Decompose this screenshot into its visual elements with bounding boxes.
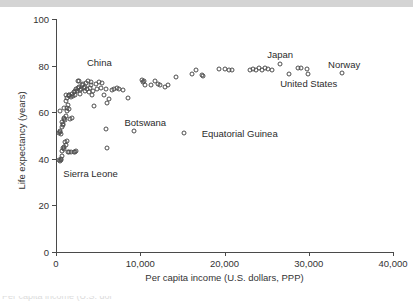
data-point bbox=[103, 86, 108, 91]
data-point bbox=[193, 68, 198, 73]
data-point bbox=[64, 92, 69, 97]
y-tick-label: 100 bbox=[33, 14, 49, 25]
x-tick-label: 30,000 bbox=[294, 258, 323, 269]
data-point bbox=[91, 104, 96, 109]
data-point bbox=[201, 74, 206, 79]
bottom-caption-ghost-text: Per capita income (U.S. dol bbox=[2, 296, 112, 301]
bottom-caption-sliver: Per capita income (U.S. dol bbox=[0, 296, 413, 303]
data-point bbox=[286, 71, 291, 76]
x-tick-mark bbox=[140, 252, 141, 256]
x-tick-mark bbox=[393, 252, 394, 256]
x-tick-label: 40,000 bbox=[378, 258, 407, 269]
annotation-label-botswana: Botswana bbox=[124, 116, 166, 127]
data-point bbox=[102, 92, 107, 97]
data-point bbox=[61, 123, 66, 128]
x-tick-label: 20,000 bbox=[210, 258, 239, 269]
data-point bbox=[74, 149, 79, 154]
x-tick-mark bbox=[56, 252, 57, 256]
x-tick-mark bbox=[309, 252, 310, 256]
y-tick-mark bbox=[52, 19, 56, 20]
y-tick-mark bbox=[52, 205, 56, 206]
y-tick-label: 20 bbox=[38, 200, 49, 211]
data-point bbox=[166, 83, 171, 88]
data-point bbox=[305, 71, 310, 76]
annotation-label-norway: Norway bbox=[328, 59, 360, 70]
annotation-label-equatorial-guinea: Equatorial Guinea bbox=[202, 128, 278, 139]
y-tick-mark bbox=[52, 66, 56, 67]
y-axis-line bbox=[56, 19, 57, 252]
data-point bbox=[217, 67, 222, 72]
y-tick-mark bbox=[52, 159, 56, 160]
data-point bbox=[105, 146, 110, 151]
y-tick-label: 60 bbox=[38, 107, 49, 118]
data-point bbox=[107, 97, 112, 102]
data-point bbox=[269, 68, 274, 73]
data-point bbox=[340, 70, 345, 75]
data-point bbox=[131, 128, 136, 133]
plot-area: 020406080100010,00020,00030,00040,000 Ch… bbox=[56, 19, 393, 252]
data-point bbox=[61, 105, 66, 110]
y-tick-mark bbox=[52, 112, 56, 113]
data-point bbox=[69, 116, 74, 121]
data-point bbox=[143, 83, 148, 88]
data-point bbox=[67, 106, 72, 111]
x-tick-mark bbox=[225, 252, 226, 256]
data-point bbox=[126, 96, 131, 101]
top-grey-band bbox=[0, 0, 413, 7]
y-tick-label: 80 bbox=[38, 60, 49, 71]
data-point bbox=[173, 75, 178, 80]
y-axis-title: Life expectancy (years) bbox=[16, 71, 27, 211]
data-point bbox=[230, 68, 235, 73]
data-point bbox=[103, 126, 108, 131]
data-point bbox=[75, 78, 80, 83]
annotation-label-united-states: United States bbox=[280, 78, 337, 89]
data-point bbox=[121, 88, 126, 93]
data-point bbox=[182, 131, 187, 136]
annotation-label-japan: Japan bbox=[267, 48, 293, 59]
x-tick-label: 10,000 bbox=[126, 258, 155, 269]
data-point bbox=[278, 62, 283, 67]
data-point bbox=[64, 139, 69, 144]
x-tick-label: 0 bbox=[53, 258, 58, 269]
annotation-label-sierra-leone: Sierra Leone bbox=[63, 167, 117, 178]
data-point bbox=[59, 132, 64, 137]
annotation-label-china: China bbox=[87, 57, 112, 68]
x-axis-title: Per capita income (U.S. dollars, PPP) bbox=[56, 272, 393, 283]
data-point bbox=[299, 65, 304, 70]
y-tick-label: 40 bbox=[38, 153, 49, 164]
figure-scatter-income-life-expectancy: 020406080100010,00020,00030,00040,000 Ch… bbox=[0, 0, 413, 303]
data-point bbox=[59, 154, 64, 159]
data-point bbox=[149, 83, 154, 88]
y-tick-label: 0 bbox=[44, 247, 49, 258]
data-point bbox=[100, 81, 105, 86]
